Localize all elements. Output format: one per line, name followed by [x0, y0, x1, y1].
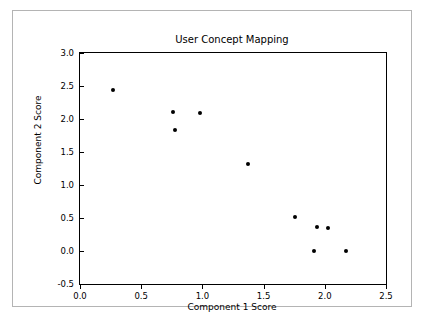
data-point — [246, 162, 250, 166]
data-point — [326, 226, 330, 230]
y-tick-mark — [80, 152, 84, 153]
x-tick-label: 0.5 — [134, 291, 148, 301]
y-tick-label: 2.5 — [60, 81, 74, 91]
y-tick-mark — [80, 284, 84, 285]
y-axis-label: Component 2 Score — [33, 40, 43, 240]
x-tick-mark — [141, 285, 142, 289]
data-point — [171, 110, 175, 114]
x-tick-label: 2.0 — [318, 291, 332, 301]
data-point — [173, 128, 177, 132]
x-tick-mark — [80, 285, 81, 289]
data-point — [312, 249, 316, 253]
data-point — [344, 249, 348, 253]
y-tick-label: 1.0 — [60, 180, 74, 190]
y-tick-label: 2.0 — [60, 114, 74, 124]
y-tick-label: 0.0 — [60, 246, 74, 256]
chart-title: User Concept Mapping — [79, 34, 385, 46]
data-point — [111, 88, 115, 92]
plot-area: 0.00.51.01.52.02.5 -0.50.00.51.01.52.02.… — [79, 52, 387, 285]
x-tick-mark — [202, 285, 203, 289]
y-tick-label: 1.5 — [60, 147, 74, 157]
data-point — [315, 225, 319, 229]
y-tick-mark — [80, 53, 84, 54]
x-tick-label: 1.0 — [196, 291, 210, 301]
y-tick-mark — [80, 86, 84, 87]
y-tick-mark — [80, 218, 84, 219]
y-tick-mark — [80, 119, 84, 120]
x-tick-label: 2.5 — [379, 291, 393, 301]
y-tick-mark — [80, 185, 84, 186]
x-tick-mark — [325, 285, 326, 289]
x-tick-mark — [386, 285, 387, 289]
figure-frame: User Concept Mapping Component 2 Score C… — [12, 10, 412, 307]
y-tick-label: -0.5 — [57, 279, 74, 289]
x-tick-label: 1.5 — [257, 291, 271, 301]
data-point — [198, 111, 202, 115]
y-tick-mark — [80, 251, 84, 252]
x-tick-mark — [264, 285, 265, 289]
x-tick-label: 0.0 — [73, 291, 87, 301]
x-axis-label: Component 1 Score — [79, 302, 385, 312]
y-tick-label: 0.5 — [60, 213, 74, 223]
y-tick-label: 3.0 — [60, 48, 74, 58]
data-point — [293, 215, 297, 219]
